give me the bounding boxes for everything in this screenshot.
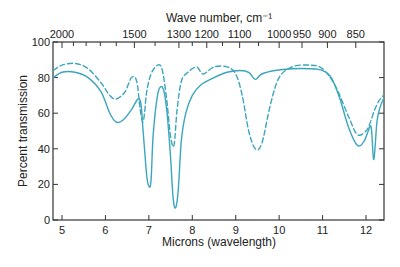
x-tick-label: 11 [317,224,328,236]
top-axis-title: Wave number, cm⁻¹ [166,11,272,25]
data-series [53,63,383,208]
x-tick-label: 10 [273,224,285,236]
plot-frame [53,42,384,220]
ir-spectrum-chart: Wave number, cm⁻¹ Percent transmission M… [0,0,400,267]
top-tick-label: 1200 [195,28,219,40]
top-tick-label: 1500 [122,28,146,40]
series-solid-line [53,68,383,208]
y-tick-label: 60 [38,107,50,119]
top-tick-label: 900 [318,28,336,40]
y-tick-label: 0 [44,214,50,226]
y-tick-label: 40 [38,143,50,155]
x-axis-title: Microns (wavelength) [162,235,276,249]
x-tick-label: 12 [360,224,372,236]
x-axis-ticks: 56789101112 [59,215,372,236]
y-axis-title: Percent transmission [16,75,30,187]
x-tick-label: 8 [189,224,195,236]
top-tick-label: 1000 [267,28,291,40]
y-axis-ticks: 020406080100 [32,36,384,226]
top-axis-ticks: 200015001300120011001000950900850 [50,28,365,48]
top-tick-label: 2000 [50,28,74,40]
x-tick-label: 6 [102,224,108,236]
x-tick-label: 5 [59,224,65,236]
x-tick-label: 7 [146,224,152,236]
x-tick-label: 9 [233,224,239,236]
y-tick-label: 20 [38,178,50,190]
top-tick-label: 1100 [228,28,252,40]
y-tick-label: 100 [32,36,50,48]
top-tick-label: 950 [293,28,311,40]
top-tick-label: 1300 [167,28,191,40]
y-tick-label: 80 [38,72,50,84]
top-tick-label: 850 [347,28,365,40]
